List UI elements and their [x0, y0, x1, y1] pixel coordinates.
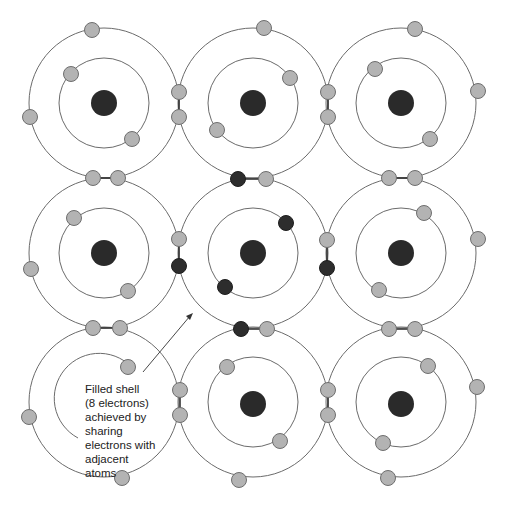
atom-top-left: [23, 23, 180, 179]
electron-highlighted: [172, 259, 187, 274]
electron: [113, 321, 128, 336]
shared-pair-r0-c12: [321, 85, 336, 125]
electron: [470, 380, 485, 395]
electron: [173, 383, 188, 398]
electron: [121, 284, 136, 299]
electron: [259, 172, 274, 187]
annotation-line: atoms: [85, 467, 117, 479]
annotation-line: adjacent: [85, 453, 129, 465]
electron: [125, 132, 140, 147]
electron: [64, 67, 79, 82]
electron: [321, 408, 336, 423]
electron: [321, 110, 336, 125]
electron: [372, 283, 387, 298]
electron: [382, 171, 397, 186]
electron: [257, 21, 272, 36]
electron: [67, 211, 82, 226]
nucleus: [240, 391, 266, 417]
electron: [408, 171, 423, 186]
nucleus: [240, 240, 266, 266]
electron: [86, 321, 101, 336]
annotation-line: sharing: [85, 425, 123, 437]
electron: [408, 322, 423, 337]
electron: [320, 233, 335, 248]
electron: [172, 110, 187, 125]
shared-pair-c1-r01: [231, 172, 274, 187]
electron-highlighted: [231, 172, 246, 187]
electron: [232, 473, 247, 488]
electron: [408, 22, 423, 37]
nucleus: [388, 240, 414, 266]
electron: [382, 322, 397, 337]
annotation-line: (8 electrons): [85, 397, 149, 409]
nucleus: [91, 240, 117, 266]
svg-text:achieved by: achieved by: [85, 411, 147, 423]
covalent-bonding-diagram: Filled shell (8 electrons) achieved by s…: [0, 0, 510, 506]
electron-highlighted: [218, 280, 233, 295]
annotation-line: Filled shell: [85, 383, 139, 395]
electron: [23, 110, 38, 125]
atom-top-right: [326, 22, 486, 179]
atom-middle-left: [24, 178, 180, 328]
electron: [471, 232, 486, 247]
atom-middle-right: [326, 178, 486, 328]
nucleus: [388, 90, 414, 116]
electron-highlighted: [279, 216, 294, 231]
electron: [173, 408, 188, 423]
svg-text:adjacent: adjacent: [85, 453, 129, 465]
atom-center: [178, 178, 328, 328]
shared-pair-r0-c01: [172, 85, 187, 125]
electron: [273, 434, 288, 449]
electron: [421, 359, 436, 374]
electron: [111, 171, 126, 186]
electron-highlighted: [320, 261, 335, 276]
nucleus: [388, 391, 414, 417]
electron: [321, 383, 336, 398]
electron: [260, 322, 275, 337]
atom-top-center: [178, 21, 328, 179]
electron: [24, 262, 39, 277]
electron: [283, 71, 298, 86]
electron: [321, 85, 336, 100]
shared-pair-c2-r12: [382, 322, 423, 337]
electron: [172, 232, 187, 247]
electron: [172, 85, 187, 100]
shared-pair-c1-r12: [234, 322, 275, 337]
shared-pair-c0-r12: [86, 321, 128, 336]
electron: [471, 84, 486, 99]
shared-pair-c0-r01: [86, 171, 126, 186]
svg-text:atoms: atoms: [85, 467, 117, 479]
shared-pair-r1-c12: [320, 233, 335, 276]
shared-pair-r1-c01: [172, 232, 187, 274]
electron: [417, 206, 432, 221]
electron: [86, 171, 101, 186]
electron: [220, 360, 235, 375]
electron: [423, 132, 438, 147]
electron: [121, 360, 136, 375]
electron: [22, 410, 37, 425]
svg-text:sharing: sharing: [85, 425, 123, 437]
electron: [115, 471, 130, 486]
electron: [85, 23, 100, 38]
shared-pair-c2-r01: [382, 171, 423, 186]
electron-highlighted: [234, 322, 249, 337]
nucleus: [91, 90, 117, 116]
shared-pair-r2-c01: [173, 383, 188, 423]
nucleus: [240, 90, 266, 116]
svg-text:(8 electrons): (8 electrons): [85, 397, 149, 409]
atom-bottom-center: [178, 327, 328, 488]
shared-pair-r2-c12: [321, 383, 336, 423]
svg-text:Filled shell: Filled shell: [85, 383, 139, 395]
annotation-line: electrons with: [85, 439, 155, 451]
electron: [376, 436, 391, 451]
electron: [368, 62, 383, 77]
leader-line: [143, 316, 190, 372]
annotation-line: achieved by: [85, 411, 147, 423]
electron: [210, 123, 225, 138]
electron: [381, 471, 396, 486]
svg-text:electrons with: electrons with: [85, 439, 155, 451]
atom-bottom-right: [326, 327, 485, 486]
